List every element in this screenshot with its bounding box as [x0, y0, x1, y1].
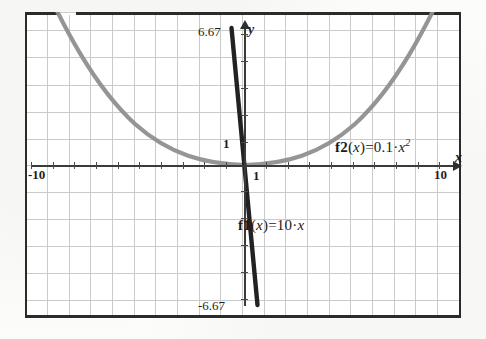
x-axis-min-label: -10: [28, 167, 45, 183]
page-background: -10 10 6.67 -6.67 1 1 x y f2(x)=0.1·x2 f…: [0, 0, 486, 339]
function-label-f1-name: f1: [238, 217, 251, 233]
graph-plot-area: -10 10 6.67 -6.67 1 1 x y f2(x)=0.1·x2 f…: [25, 12, 461, 318]
function-label-f2-equals: )=0.1·: [360, 139, 398, 155]
y-axis-min-label: -6.67: [198, 298, 225, 314]
y-axis-max-label: 6.67: [198, 24, 221, 40]
x-axis-letter-label: x: [455, 150, 462, 166]
function-label-f2-name: f2: [335, 139, 348, 155]
x-axis-unit-label: 1: [253, 168, 260, 184]
y-axis-letter-label: y: [248, 22, 254, 38]
function-label-f1-variable2: x: [297, 217, 304, 233]
function-label-f1: f1(x)=10·x: [238, 217, 304, 234]
function-label-f1-equals: )=10·: [263, 217, 297, 233]
y-axis-line: [244, 28, 246, 306]
function-label-f1-variable: x: [256, 217, 263, 233]
y-axis-unit-label: 1: [223, 136, 230, 152]
function-label-f2-exponent: 2: [405, 137, 410, 148]
axes: [25, 12, 461, 318]
x-axis-line: [31, 165, 455, 167]
function-label-f2: f2(x)=0.1·x2: [335, 137, 410, 156]
function-label-f2-variable: x: [353, 139, 360, 155]
x-axis-max-label: 10: [434, 167, 447, 183]
